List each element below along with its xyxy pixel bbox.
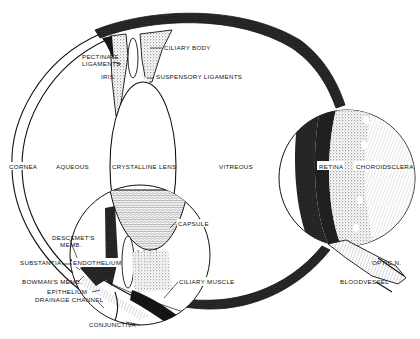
label-pectinate-1: PECTINATE [82,53,119,60]
label-conjunctiva: CONJUNCTIVA [89,321,136,328]
label-optic-nerve: OPTIC N. [372,259,401,266]
label-vitreous: VITREOUS [219,163,253,170]
label-suspensory-ligaments: SUSPENSORY LIGAMENTS [156,73,242,80]
label-drainage-channel: DRAINAGE CHANNEL [35,296,104,303]
label-descemets-2: MEMB. [60,241,82,248]
label-retina: RETINA [319,163,344,170]
label-capsule: CAPSULE [178,220,209,227]
label-bowmans-memb: BOWMAN'S MEMB. [22,278,82,285]
label-iris: IRIS [101,73,114,80]
label-cornea: CORNEA [9,163,38,170]
retina-layers-inset [279,110,420,248]
eye-anatomy-diagram: CORNEA AQUEOUS CRYSTALLINE LENS VITREOUS… [0,0,420,339]
label-descemets-1: DESCEMET'S [52,234,95,241]
label-ciliary-body: CILIARY BODY [164,44,211,51]
label-epithelium: EPITHELIUM [47,288,87,295]
anterior-chamber-inset [60,185,210,330]
label-substantia: SUBSTANTIA [20,259,62,266]
label-aqueous: AQUEOUS [56,163,89,170]
label-ciliary-muscle: CILIARY MUSCLE [179,278,235,285]
label-sclera: SCLERA [387,163,414,170]
label-choroid: CHOROID [356,163,388,170]
label-crystalline-lens: CRYSTALLINE LENS [112,163,176,170]
label-endothelium: ENDOTHELIUM [73,259,121,266]
label-bloodvessel: BLOODVESSEL [340,278,389,285]
label-pectinate-2: LIGAMENTS [82,60,120,67]
